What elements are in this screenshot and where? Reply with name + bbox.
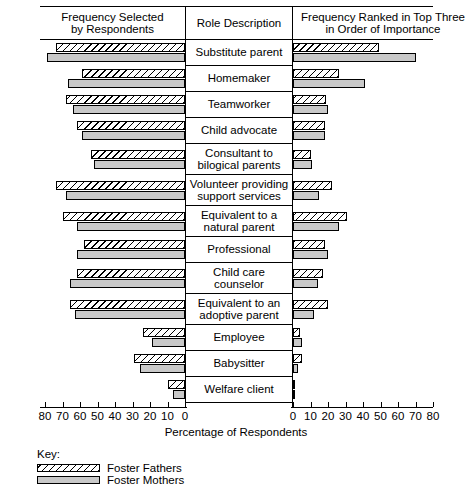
bar-right-fathers — [293, 69, 339, 78]
chart-row: Babysitter — [40, 351, 433, 377]
axis-tick-label: 30 — [126, 410, 139, 422]
bar-right-fathers — [293, 380, 295, 389]
bar-left-mothers — [68, 79, 185, 88]
legend-key-label: Key: — [37, 448, 184, 460]
axis-tick-label: 10 — [304, 410, 317, 422]
bar-left-fathers — [77, 269, 186, 278]
role-description-cell: Equivalent to anadoptive parent — [185, 294, 293, 325]
bar-right-mothers — [293, 250, 328, 259]
chart-row: Child carecounselor — [40, 263, 433, 294]
role-description-cell: Babysitter — [185, 351, 293, 377]
chart-row: Substitute parent — [40, 40, 433, 66]
center-column-rail — [292, 403, 293, 407]
role-description-label: Child carecounselor — [210, 266, 268, 291]
axis-tick-label: 80 — [39, 410, 52, 422]
table-header: Frequency Selected by Respondents Role D… — [40, 6, 433, 40]
role-description-label: Homemaker — [205, 72, 274, 85]
bar-left-mothers — [94, 160, 185, 169]
axis-title: Percentage of Respondents — [0, 426, 472, 438]
axis-tick — [416, 402, 417, 407]
bar-left-mothers — [77, 250, 186, 259]
header-right-title: Frequency Ranked in Top Three in Order o… — [293, 6, 472, 40]
bar-right-fathers — [293, 354, 302, 363]
axis-center-gap — [187, 407, 291, 409]
bar-right-mothers — [293, 222, 339, 231]
bar-left-fathers — [84, 240, 186, 249]
chart-rows: Substitute parentHomemakerTeamworkerChil… — [40, 40, 433, 403]
bar-right-mothers — [293, 191, 319, 200]
axis-tick — [98, 402, 99, 407]
role-description-label: Substitute parent — [193, 46, 286, 59]
axis-tick-label: 40 — [109, 410, 122, 422]
role-description-cell: Consultant tobilogical parents — [185, 144, 293, 175]
bar-right-fathers — [293, 121, 325, 130]
chart-row: Professional — [40, 237, 433, 263]
bar-right-fathers — [293, 212, 347, 221]
bar-right-fathers — [293, 95, 326, 104]
axis-tick — [133, 402, 134, 407]
bar-left-mothers — [173, 390, 185, 399]
chart-row: Volunteer providingsupport services — [40, 175, 433, 206]
bar-left-mothers — [70, 279, 186, 288]
role-description-label: Child advocate — [198, 124, 280, 137]
bar-left-fathers — [77, 121, 186, 130]
bar-right-mothers — [293, 53, 416, 62]
bar-right-fathers — [293, 328, 300, 337]
role-description-cell: Child advocate — [185, 118, 293, 144]
bar-left-mothers — [152, 338, 185, 347]
chart-row: Welfare client — [40, 377, 433, 403]
axis-tick-label: 80 — [427, 410, 440, 422]
axis-tick — [398, 402, 399, 407]
axis-tick-label: 60 — [74, 410, 87, 422]
header-left-title-line2: by Respondents — [61, 23, 163, 36]
header-left-title: Frequency Selected by Respondents — [40, 6, 185, 40]
role-description-label: Welfare client — [201, 383, 276, 396]
axis-tick — [311, 402, 312, 407]
role-description-label: Professional — [204, 243, 273, 256]
axis-tick-label: 30 — [339, 410, 352, 422]
chart-row: Equivalent to anatural parent — [40, 206, 433, 237]
role-description-cell: Homemaker — [185, 66, 293, 92]
role-description-cell: Equivalent to anatural parent — [185, 206, 293, 237]
axis-tick-label: 50 — [91, 410, 104, 422]
axis-tick — [433, 402, 434, 407]
bar-right-fathers — [293, 240, 325, 249]
legend-label-fathers: Foster Fathers — [107, 462, 182, 474]
axis-tick — [293, 402, 294, 407]
legend: Key: Foster Fathers Foster Mothers — [37, 448, 184, 486]
axis-tick-label: 60 — [392, 410, 405, 422]
bar-left-mothers — [82, 131, 185, 140]
bar-left-mothers — [77, 222, 186, 231]
axis-tick — [150, 402, 151, 407]
role-description-cell: Substitute parent — [185, 40, 293, 66]
chart-table: Frequency Selected by Respondents Role D… — [40, 6, 433, 403]
bar-left-mothers — [73, 105, 185, 114]
axis-tick — [328, 402, 329, 407]
bar-left-fathers — [56, 181, 186, 190]
role-description-cell: Child carecounselor — [185, 263, 293, 294]
header-right-title-line1: Frequency Ranked in Top Three — [301, 11, 465, 24]
axis-tick — [63, 402, 64, 407]
legend-swatch-fathers-icon — [37, 464, 100, 472]
bar-left-fathers — [63, 212, 186, 221]
bar-left-fathers — [66, 95, 185, 104]
axis-tick — [381, 402, 382, 407]
bar-right-mothers — [293, 279, 318, 288]
bar-left-fathers — [82, 69, 185, 78]
chart-row: Child advocate — [40, 118, 433, 144]
axis-tick — [115, 402, 116, 407]
axis-tick-labels: 8070605040302010001020304050607080 — [0, 410, 472, 424]
legend-item-foster-mothers: Foster Mothers — [37, 474, 184, 485]
axis-tick-label: 70 — [56, 410, 69, 422]
bar-right-mothers — [293, 364, 298, 373]
role-description-cell: Teamworker — [185, 92, 293, 118]
role-description-label: Teamworker — [205, 98, 274, 111]
header-mid-title: Role Description — [185, 6, 293, 40]
axis-tick — [80, 402, 81, 407]
role-description-label: Babysitter — [210, 357, 267, 370]
axis-tick — [168, 402, 169, 407]
bar-right-mothers — [293, 310, 314, 319]
bar-right-mothers — [293, 105, 328, 114]
chart-row: Equivalent to anadoptive parent — [40, 294, 433, 325]
axis-tick-label: 40 — [357, 410, 370, 422]
